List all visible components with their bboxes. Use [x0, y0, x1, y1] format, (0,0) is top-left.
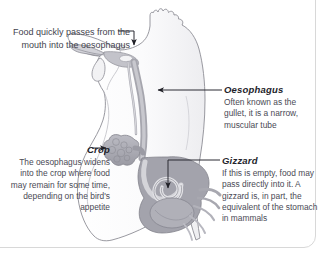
callout-crop-text: The oesophagus widens into the crop wher… — [4, 157, 110, 213]
callout-oesophagus-text: Often known as the gullet, it is a narro… — [224, 97, 320, 131]
callout-mouth-text: Food quickly passes from the mouth into … — [10, 26, 130, 52]
callout-crop: Crop The oesophagus widens into the crop… — [4, 144, 110, 213]
figure-page: Food quickly passes from the mouth into … — [0, 0, 325, 257]
callout-gizzard-text: If this is empty, food may pass directly… — [222, 168, 321, 224]
callout-gizzard: Gizzard If this is empty, food may pass … — [222, 155, 321, 224]
callout-crop-heading: Crop — [4, 144, 110, 156]
callout-gizzard-heading: Gizzard — [222, 155, 321, 167]
callout-oesophagus: Oesophagus Often known as the gullet, it… — [224, 84, 320, 131]
callout-mouth: Food quickly passes from the mouth into … — [10, 26, 130, 52]
callout-oesophagus-heading: Oesophagus — [224, 84, 320, 96]
